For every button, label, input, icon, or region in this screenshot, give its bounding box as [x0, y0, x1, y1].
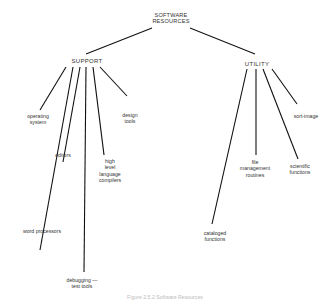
- leaf-editors: editors: [55, 152, 71, 158]
- branch-node-utility: UTILITY: [245, 61, 269, 67]
- edge-support-design-tools: [100, 67, 127, 96]
- edge-support-operating-system: [40, 67, 66, 110]
- figure-caption: Figure 2.5.2 Software Resources: [127, 294, 203, 300]
- branch-node-support: SUPPORT: [72, 58, 103, 64]
- tree-connectors: [0, 0, 328, 304]
- leaf-debugging-test-tools: debugging — test tools: [67, 277, 98, 290]
- edge-support-debugging: [84, 67, 86, 272]
- leaf-operating-system: operating system: [27, 113, 49, 126]
- edge-support-editors: [63, 67, 80, 162]
- leaf-word-processors: word processors: [23, 228, 61, 234]
- leaf-design-tools: design tools: [122, 112, 137, 125]
- edge-utility-sort-image: [272, 69, 297, 104]
- leaf-file-management-routines: file management routines: [240, 159, 270, 178]
- leaf-cataloged-functions: cataloged functions: [204, 230, 227, 243]
- edge-support-compilers: [93, 67, 104, 155]
- edge-utility-cataloged: [212, 69, 247, 224]
- root-node-software-resources: SOFTWARE RESOURCES: [152, 12, 189, 25]
- edge-root-support: [86, 28, 152, 54]
- edge-root-utility: [190, 28, 255, 54]
- leaf-scientific-functions: scientific functions: [290, 163, 311, 176]
- leaf-high-level-language-compilers: high level language compilers: [99, 158, 121, 184]
- edge-support-word-processors: [40, 67, 73, 250]
- leaf-sort-image: sort-image: [294, 113, 319, 119]
